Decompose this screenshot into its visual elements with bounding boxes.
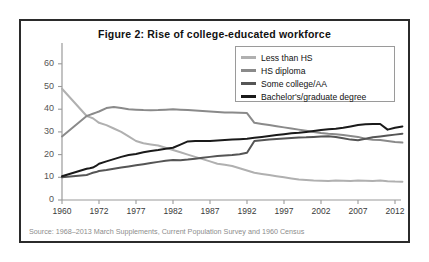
legend-swatch-bachelors — [241, 95, 256, 98]
figure-frame: Figure 2: Rise of college-educated workf… — [19, 19, 410, 243]
y-axis-tick-60: 60 — [32, 58, 54, 68]
x-axis-tick-1987: 1987 — [193, 206, 227, 216]
x-axis-tick-1977: 1977 — [119, 206, 153, 216]
series-line-hs-diploma — [62, 107, 402, 143]
legend-swatch-hs-diploma — [241, 69, 256, 72]
y-axis-tick-30: 30 — [32, 126, 54, 136]
x-axis-tick-2007: 2007 — [341, 206, 375, 216]
chart-legend: Less than HSHS diplomaSome college/AABac… — [235, 46, 395, 102]
y-axis-tick-50: 50 — [32, 81, 54, 91]
legend-item-3[interactable]: Bachelor's/graduate degree — [241, 90, 394, 103]
x-axis-tick-1992: 1992 — [230, 206, 264, 216]
legend-item-2[interactable]: Some college/AA — [241, 77, 394, 90]
legend-swatch-less-than-hs — [241, 56, 256, 59]
legend-label-3: Bachelor's/graduate degree — [261, 92, 366, 102]
x-axis-tick-1982: 1982 — [156, 206, 190, 216]
x-axis-tick-2012: 2012 — [378, 206, 412, 216]
x-axis-tick-2002: 2002 — [304, 206, 338, 216]
x-axis-tick-1972: 1972 — [82, 206, 116, 216]
y-axis-tick-40: 40 — [32, 103, 54, 113]
x-axis-tick-1997: 1997 — [267, 206, 301, 216]
y-axis-tick-20: 20 — [32, 149, 54, 159]
legend-label-0: Less than HS — [261, 53, 313, 63]
x-axis-tick-1960: 1960 — [45, 206, 79, 216]
plot-area: 6050403020100 19601972197719821987199219… — [21, 21, 408, 241]
y-axis-tick-10: 10 — [32, 171, 54, 181]
legend-item-1[interactable]: HS diploma — [241, 64, 394, 77]
source-note: Source: 1968–2013 March Supplements, Cur… — [29, 227, 304, 236]
legend-label-1: HS diploma — [261, 66, 305, 76]
legend-label-2: Some college/AA — [261, 79, 327, 89]
legend-swatch-some-college — [241, 82, 256, 85]
y-axis-tick-0: 0 — [32, 194, 54, 204]
legend-item-0[interactable]: Less than HS — [241, 51, 394, 64]
